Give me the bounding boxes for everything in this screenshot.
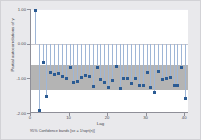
pacf-marker bbox=[49, 71, 52, 74]
pacf-marker bbox=[157, 70, 160, 73]
pacf-marker bbox=[161, 78, 164, 81]
pacf-spike bbox=[147, 44, 148, 73]
pacf-marker bbox=[65, 77, 68, 80]
x-axis-title: Lag bbox=[0, 121, 201, 126]
pacf-marker bbox=[80, 76, 83, 79]
plot-region bbox=[30, 9, 188, 113]
pacf-spike bbox=[135, 44, 136, 79]
y-tick-label: -1.00 bbox=[2, 76, 26, 81]
pacf-spike bbox=[104, 44, 105, 82]
pacf-spike bbox=[54, 44, 55, 75]
x-tick-mark bbox=[146, 113, 147, 116]
pacf-marker bbox=[111, 79, 114, 82]
pacf-spike bbox=[158, 44, 159, 71]
pacf-marker bbox=[119, 87, 122, 90]
x-tick-mark bbox=[184, 113, 185, 116]
pacf-marker bbox=[103, 81, 106, 84]
pacf-marker bbox=[72, 81, 75, 84]
pacf-marker bbox=[84, 74, 87, 77]
pacf-spike bbox=[46, 44, 47, 97]
pacf-spike bbox=[150, 44, 151, 87]
pacf-marker bbox=[153, 91, 156, 94]
pacf-spike bbox=[181, 44, 182, 67]
pacf-spike bbox=[116, 44, 117, 66]
pacf-marker bbox=[184, 97, 187, 100]
pacf-spike bbox=[58, 44, 59, 73]
pacf-marker bbox=[122, 77, 125, 80]
pacf-marker bbox=[42, 61, 45, 64]
pacf-spike bbox=[89, 44, 90, 76]
pacf-marker bbox=[130, 82, 133, 85]
pacf-spike bbox=[162, 44, 163, 80]
pacf-spike bbox=[93, 44, 94, 86]
pacf-marker bbox=[96, 66, 99, 69]
pacf-marker bbox=[138, 84, 141, 87]
pacf-spike bbox=[177, 44, 178, 85]
pacf-spike bbox=[81, 44, 82, 77]
pacf-marker bbox=[107, 86, 110, 89]
pacf-marker bbox=[88, 75, 91, 78]
plot-inner bbox=[31, 9, 188, 112]
pacf-spike bbox=[100, 44, 101, 79]
pacf-marker bbox=[53, 73, 56, 76]
pacf-marker bbox=[92, 85, 95, 88]
pacf-spike bbox=[66, 44, 67, 78]
pacf-marker bbox=[76, 80, 79, 83]
pacf-spike bbox=[139, 44, 140, 85]
pacf-marker bbox=[99, 78, 102, 81]
pacf-spike bbox=[154, 44, 155, 93]
pacf-spike bbox=[143, 44, 144, 85]
pacf-spike bbox=[97, 44, 98, 67]
pacf-marker bbox=[69, 66, 72, 69]
pacf-marker bbox=[134, 77, 137, 80]
pacf-spike bbox=[77, 44, 78, 81]
pacf-marker bbox=[176, 84, 179, 87]
pacf-marker bbox=[115, 65, 118, 68]
pacf-spike bbox=[174, 44, 175, 85]
pacf-spike bbox=[50, 44, 51, 73]
pacf-spike bbox=[123, 44, 124, 78]
pacf-marker bbox=[45, 95, 48, 98]
pacf-spike bbox=[120, 44, 121, 89]
pacf-marker bbox=[142, 84, 145, 87]
pacf-spike bbox=[35, 10, 36, 44]
pacf-marker bbox=[57, 72, 60, 75]
y-tick-label: 1.00 bbox=[2, 7, 26, 12]
pacf-spike bbox=[166, 44, 167, 79]
y-tick-label: 0.00 bbox=[2, 41, 26, 46]
pacf-spike bbox=[127, 44, 128, 78]
confidence-band-note: 95% Confidence bands [se = 1/sqrt(n)] bbox=[30, 129, 95, 133]
pacf-marker bbox=[165, 77, 168, 80]
pacf-spike bbox=[108, 44, 109, 87]
gridline-top bbox=[31, 9, 188, 10]
x-tick-mark bbox=[30, 113, 31, 116]
pacf-spike bbox=[43, 44, 44, 62]
pacf-spike bbox=[85, 44, 86, 76]
pacf-marker bbox=[146, 71, 149, 74]
pacf-spike bbox=[185, 44, 186, 99]
pacf-marker bbox=[61, 75, 64, 78]
pacf-marker bbox=[180, 66, 183, 69]
pacf-spike bbox=[39, 44, 40, 110]
pacf-chart-figure: Partial autocorrelations of y 1.000.00-1… bbox=[0, 0, 201, 140]
pacf-spike bbox=[131, 44, 132, 84]
x-tick-mark bbox=[69, 113, 70, 116]
pacf-spike bbox=[170, 44, 171, 77]
pacf-marker bbox=[126, 77, 129, 80]
pacf-spike bbox=[112, 44, 113, 80]
pacf-marker bbox=[34, 9, 37, 12]
pacf-marker bbox=[173, 84, 176, 87]
pacf-marker bbox=[38, 109, 41, 112]
pacf-spike bbox=[73, 44, 74, 83]
pacf-marker bbox=[149, 86, 152, 89]
pacf-marker bbox=[169, 76, 172, 79]
x-tick-mark bbox=[107, 113, 108, 116]
pacf-spike bbox=[62, 44, 63, 77]
pacf-spike bbox=[70, 44, 71, 68]
